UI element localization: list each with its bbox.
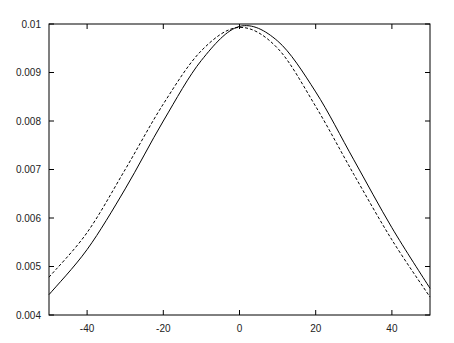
x-tick-label: 0 [237,323,243,334]
x-axis: -40-2002040 [80,24,398,334]
y-tick-label: 0.006 [16,213,41,224]
plot-border [49,24,430,315]
y-tick-label: 0.004 [16,310,41,321]
series-dashed-line [49,27,430,297]
y-tick-label: 0.007 [16,164,41,175]
y-tick-label: 0.005 [16,261,41,272]
series [49,26,430,297]
x-tick-label: -40 [80,323,95,334]
x-tick-label: -20 [156,323,171,334]
y-tick-label: 0.008 [16,116,41,127]
x-tick-label: 20 [310,323,322,334]
y-tick-label: 0.01 [22,19,42,30]
y-axis: 0.0040.0050.0060.0070.0080.0090.01 [16,19,430,321]
line-chart: -40-2002040 0.0040.0050.0060.0070.0080.0… [0,0,454,343]
x-tick-label: 40 [386,323,398,334]
plot-frame [49,24,430,315]
y-tick-label: 0.009 [16,67,41,78]
series-solid-line [49,26,430,295]
